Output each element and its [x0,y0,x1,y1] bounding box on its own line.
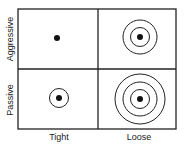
target-dot-icon [54,35,60,41]
target-dot-icon [56,95,62,101]
quadrant-aggressive-tight [54,35,60,41]
target-dot-icon [137,96,143,102]
x-label-tight: Tight [49,132,69,142]
y-label-passive: Passive [5,84,15,116]
quadrant-passive-tight [50,89,69,108]
quadrant-passive-loose [115,74,165,124]
quadrant-aggressive-loose [123,20,157,54]
target-dot-icon [137,34,143,40]
y-label-aggressive: Aggressive [5,17,15,62]
quadrant-diagram: Aggressive Passive Tight Loose [0,0,186,148]
x-label-loose: Loose [127,132,152,142]
